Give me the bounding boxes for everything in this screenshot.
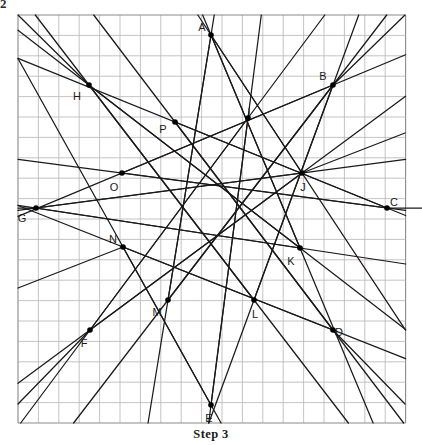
outer-vertex-dot	[33, 205, 39, 211]
outer-vertex-label: H	[73, 90, 81, 102]
ray-H-upper-left	[18, 15, 89, 85]
outer-vertex-label: G	[18, 212, 27, 224]
vertex-dots-layer	[33, 32, 390, 408]
inner-vertex-label: N	[109, 233, 117, 245]
outer-vertex-dot	[208, 402, 214, 408]
construction-line-extended	[18, 205, 406, 264]
outer-vertex-label: C	[390, 196, 398, 208]
inner-vertex-dot	[120, 244, 126, 250]
construction-line-extended	[18, 30, 406, 329]
inner-vertex-dot	[299, 170, 305, 176]
inner-vertex-dot	[251, 297, 257, 303]
figure-container: 2 ABCDEFGHIJKLMNOP Step 3	[0, 0, 422, 445]
outer-vertex-label: A	[198, 21, 206, 33]
outer-vertex-label: E	[205, 412, 212, 424]
outer-vertex-label: F	[81, 337, 88, 349]
inner-vertex-label: O	[110, 181, 119, 193]
figure-caption: Step 3	[0, 427, 422, 442]
outer-vertex-dot	[86, 82, 92, 88]
inner-vertex-dot	[172, 119, 178, 125]
outer-vertex-dot	[87, 327, 93, 333]
inner-vertex-label: M	[152, 306, 161, 318]
construction-line-extended	[18, 206, 406, 359]
ray-N-left-down	[18, 247, 123, 288]
outer-vertex-label: B	[319, 70, 326, 82]
inner-vertex-label: K	[287, 255, 295, 267]
inner-vertex-label: I	[247, 106, 250, 118]
ray-B-upper-right	[333, 15, 405, 85]
outer-vertex-dot	[208, 32, 214, 38]
inner-vertex-dot	[165, 297, 171, 303]
inner-vertex-label: J	[300, 181, 306, 193]
star-diagram: ABCDEFGHIJKLMNOP	[0, 0, 422, 445]
inner-vertex-label: L	[252, 308, 258, 320]
outer-vertex-label: D	[335, 326, 343, 338]
outer-vertex-dot	[384, 205, 390, 211]
ray-J-right-up	[302, 133, 405, 173]
construction-line-extended	[18, 58, 221, 423]
inner-vertex-dot	[119, 170, 125, 176]
inner-vertex-dot	[297, 245, 303, 251]
outer-vertex-dot	[330, 82, 336, 88]
inner-vertex-label: P	[159, 123, 166, 135]
